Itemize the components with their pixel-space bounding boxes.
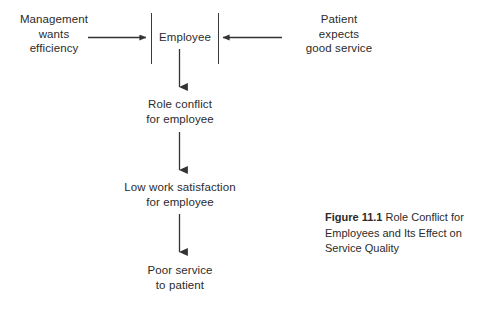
node-patient-expects-good-service: Patient expects good service: [278, 12, 400, 56]
node-management-wants-efficiency: Management wants efficiency: [6, 12, 102, 56]
node-role-conflict-for-employee: Role conflict for employee: [129, 97, 231, 126]
node-employee: Employee: [154, 30, 216, 45]
employee-divider-bar-right: [218, 13, 219, 64]
figure-caption: Figure 11.1 Role Conflict for Employees …: [325, 210, 500, 257]
employee-divider-bar-left: [151, 13, 152, 64]
figure-caption-label: Figure 11.1: [325, 211, 382, 223]
node-poor-service-to-patient: Poor service to patient: [132, 263, 228, 292]
figure-diagram: Management wants efficiency Patient expe…: [0, 0, 503, 310]
node-low-work-satisfaction-for-employee: Low work satisfaction for employee: [114, 180, 246, 209]
